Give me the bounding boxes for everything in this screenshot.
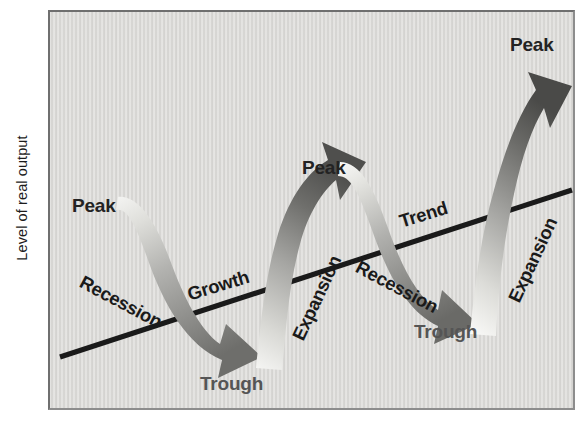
recession-arrow-2 bbox=[338, 162, 478, 344]
label-trough-1: Trough bbox=[200, 374, 263, 393]
y-axis-label: Level of real output bbox=[14, 98, 30, 298]
label-peak-1: Peak bbox=[72, 196, 116, 215]
label-peak-3: Peak bbox=[510, 35, 554, 54]
label-peak-2: Peak bbox=[302, 158, 346, 177]
cycle-graphic bbox=[50, 12, 573, 408]
business-cycle-diagram: Level of real output bbox=[0, 0, 588, 428]
label-trough-2: Trough bbox=[414, 322, 477, 341]
plot-area: Peak Recession Growth Trough Expansion P… bbox=[48, 10, 575, 410]
